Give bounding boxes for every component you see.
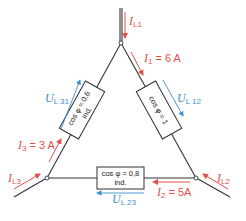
delta-circuit-diagram: cos φ = 0,6 ind. cos φ = 1 cos φ = 0,8 i… [0, 0, 246, 221]
node-L3 [45, 176, 49, 180]
load-23: cos φ = 0,8 ind. [97, 167, 144, 189]
label-I2: I2 = 5A [156, 185, 192, 200]
node-L2 [194, 176, 198, 180]
label-UL23: UL 23 [112, 192, 136, 207]
load-31: cos φ = 0,6 ind. [59, 81, 104, 139]
label-I3: I3 = 3 A [17, 138, 56, 153]
label-UL31: UL 31 [45, 91, 69, 106]
label-IL3: IL3 [7, 171, 21, 186]
load-12: cos φ = 1 [136, 81, 181, 139]
load-23-line2: ind. [114, 178, 126, 187]
label-I1: I1 = 6 A [143, 51, 182, 66]
node-L1 [119, 41, 123, 45]
label-IL2: IL2 [216, 171, 230, 186]
load-23-line1: cos φ = 0,8 [102, 169, 140, 178]
label-IL1: IL1 [128, 14, 142, 29]
label-UL12: UL 12 [177, 91, 201, 106]
